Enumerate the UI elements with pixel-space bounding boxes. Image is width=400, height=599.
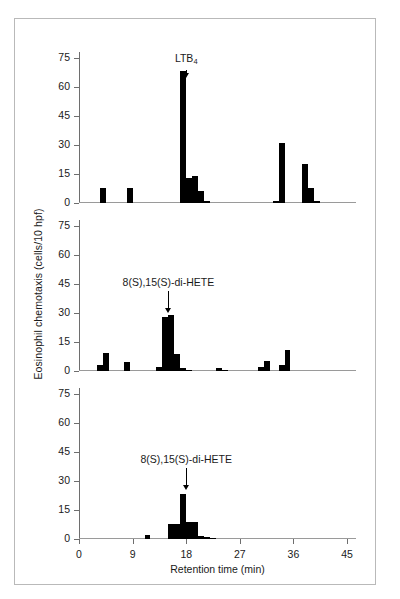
y-axis-tick: 75 bbox=[74, 394, 79, 395]
y-axis-tick: 75 bbox=[74, 58, 79, 59]
x-axis-tick-label: 36 bbox=[288, 548, 300, 561]
histogram-bar bbox=[285, 350, 291, 371]
y-axis-tick: 75 bbox=[74, 226, 79, 227]
histogram-bar bbox=[279, 143, 285, 203]
y-axis-tick-label: 15 bbox=[58, 335, 70, 348]
x-axis-tick-label: 9 bbox=[130, 548, 136, 561]
peak-annotation: 8(S),15(S)-di-HETE bbox=[86, 453, 286, 490]
y-axis-tick: 15 bbox=[74, 510, 79, 511]
y-axis-line bbox=[79, 388, 80, 539]
x-axis-title: Retention time (min) bbox=[79, 563, 356, 575]
y-axis-tick-label: 30 bbox=[58, 474, 70, 487]
y-axis-line bbox=[79, 220, 80, 371]
histogram-bar bbox=[100, 188, 106, 203]
peak-annotation-subscript: 4 bbox=[193, 57, 197, 66]
x-axis-tick bbox=[347, 539, 348, 544]
chart-panel-bottom: 0153045607509182736458(S),15(S)-di-HETE bbox=[79, 388, 377, 539]
y-axis-tick: 60 bbox=[74, 255, 79, 256]
y-axis-tick: 0 bbox=[74, 371, 79, 372]
y-axis-tick: 45 bbox=[74, 452, 79, 453]
y-axis-tick-label: 60 bbox=[58, 416, 70, 429]
y-axis-tick: 15 bbox=[74, 174, 79, 175]
peak-annotation-label: 8(S),15(S)-di-HETE bbox=[68, 276, 268, 289]
peak-annotation: LTB4 bbox=[86, 52, 286, 78]
y-axis-line bbox=[79, 52, 80, 203]
y-axis-tick-label: 60 bbox=[58, 80, 70, 93]
x-axis-tick-label: 27 bbox=[234, 548, 246, 561]
x-axis-line bbox=[79, 538, 356, 539]
y-axis-tick-label: 75 bbox=[58, 51, 70, 64]
y-axis-tick-label: 75 bbox=[58, 219, 70, 232]
y-axis-tick-label: 75 bbox=[58, 387, 70, 400]
y-axis-tick-label: 60 bbox=[58, 248, 70, 261]
peak-annotation: 8(S),15(S)-di-HETE bbox=[68, 276, 268, 313]
y-axis-tick-label: 30 bbox=[58, 138, 70, 151]
y-axis-tick: 30 bbox=[74, 145, 79, 146]
y-axis-tick-label: 15 bbox=[58, 503, 70, 516]
x-axis-tick bbox=[79, 539, 80, 544]
y-axis-tick: 30 bbox=[74, 481, 79, 482]
figure-root: Eosinophil chemotaxis (cells/10 hpf) 015… bbox=[0, 0, 400, 599]
chart-panel-middle: 015304560758(S),15(S)-di-HETE bbox=[79, 220, 377, 371]
y-axis-tick: 45 bbox=[74, 116, 79, 117]
histogram-bar bbox=[264, 361, 270, 371]
histogram-bar bbox=[210, 538, 216, 539]
y-axis-tick-label: 0 bbox=[64, 532, 70, 545]
x-axis-tick bbox=[240, 539, 241, 544]
peak-annotation-label: LTB4 bbox=[86, 52, 286, 68]
x-axis-tick bbox=[293, 539, 294, 544]
x-axis-tick-label: 45 bbox=[341, 548, 353, 561]
y-axis-tick: 30 bbox=[74, 313, 79, 314]
x-axis-tick bbox=[133, 539, 134, 544]
y-axis-tick-label: 0 bbox=[64, 364, 70, 377]
y-axis-tick: 0 bbox=[74, 203, 79, 204]
histogram-bar bbox=[186, 370, 192, 371]
y-axis-tick-label: 45 bbox=[58, 109, 70, 122]
chart-panel-top: 01530456075LTB4 bbox=[79, 52, 377, 203]
y-axis-tick-label: 15 bbox=[58, 167, 70, 180]
histogram-bar bbox=[314, 201, 320, 203]
histogram-bar bbox=[103, 353, 109, 371]
y-axis-tick: 45 bbox=[74, 284, 79, 285]
x-axis-tick bbox=[186, 539, 187, 544]
peak-annotation-arrow-icon bbox=[164, 291, 173, 313]
y-axis-tick-label: 0 bbox=[64, 196, 70, 209]
histogram-bar bbox=[204, 201, 210, 203]
y-axis-tick: 60 bbox=[74, 87, 79, 88]
histogram-bar bbox=[145, 535, 151, 539]
histogram-bar bbox=[222, 370, 228, 371]
y-axis-tick-label: 30 bbox=[58, 306, 70, 319]
histogram-bar bbox=[127, 188, 133, 203]
histogram-bar bbox=[124, 362, 130, 371]
y-axis-tick: 60 bbox=[74, 423, 79, 424]
y-axis-tick: 15 bbox=[74, 342, 79, 343]
peak-annotation-arrow-icon bbox=[182, 468, 191, 490]
y-axis-tick-label: 45 bbox=[58, 277, 70, 290]
x-axis-tick-label: 18 bbox=[180, 548, 192, 561]
peak-annotation-label: 8(S),15(S)-di-HETE bbox=[86, 453, 286, 466]
x-axis-tick-label: 0 bbox=[76, 548, 82, 561]
y-axis-title: Eosinophil chemotaxis (cells/10 hpf) bbox=[32, 194, 44, 394]
y-axis-tick-label: 45 bbox=[58, 445, 70, 458]
